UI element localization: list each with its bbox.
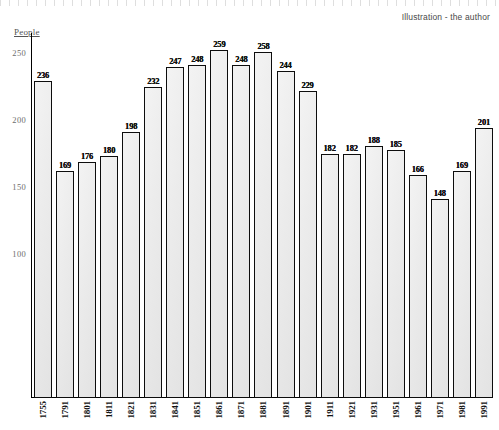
x-axis-year-label: 1951 — [391, 401, 401, 419]
bar-column: 1881931 — [365, 33, 383, 398]
x-axis-year-label: 1971 — [435, 401, 445, 419]
illustration-credit: Illustration - the author — [402, 12, 490, 22]
bar-value-label: 232 — [147, 76, 159, 86]
bar-value-label: 182 — [346, 143, 358, 153]
bar-column: 1761801 — [78, 33, 96, 398]
bar — [210, 50, 228, 398]
bar — [409, 175, 427, 398]
x-axis-year-label: 1821 — [126, 401, 136, 419]
bar-column: 2011991 — [475, 33, 493, 398]
bar-value-label: 248 — [191, 54, 203, 64]
bar — [100, 156, 118, 398]
x-axis-year-label: 1755 — [38, 401, 48, 419]
bar-series: 2361755169179117618011801811198182123218… — [31, 33, 493, 398]
bar-value-label: 176 — [81, 151, 93, 161]
bar — [299, 91, 317, 398]
bar — [365, 146, 383, 398]
x-axis-year-label: 1881 — [258, 401, 268, 419]
bar-column: 2321831 — [144, 33, 162, 398]
x-axis-year-label: 1801 — [82, 401, 92, 419]
bar-column: 1661961 — [409, 33, 427, 398]
bar-value-label: 169 — [59, 160, 71, 170]
scan-artifact-band — [0, 0, 499, 6]
bar-value-label: 247 — [169, 56, 181, 66]
bar-column: 1981821 — [122, 33, 140, 398]
chart-page: Illustration - the author People 2502001… — [0, 0, 499, 430]
bar — [431, 199, 449, 398]
x-axis-year-label: 1931 — [369, 401, 379, 419]
x-axis-year-label: 1861 — [214, 401, 224, 419]
x-axis-year-label: 1981 — [457, 401, 467, 419]
bar — [166, 67, 184, 398]
bar-column: 2481871 — [232, 33, 250, 398]
bar-value-label: 166 — [412, 164, 424, 174]
bar-column: 1821911 — [321, 33, 339, 398]
y-tick-label: 200 — [12, 115, 26, 125]
bar-value-label: 236 — [37, 70, 49, 80]
y-tick-label: 150 — [12, 182, 26, 192]
bar — [232, 65, 250, 398]
bar-column: 2291901 — [299, 33, 317, 398]
bar — [321, 154, 339, 398]
bar-value-label: 148 — [434, 188, 446, 198]
x-axis-year-label: 1961 — [413, 401, 423, 419]
bar — [144, 87, 162, 398]
x-axis-year-label: 1811 — [104, 401, 114, 418]
x-axis-year-label: 1791 — [60, 401, 70, 419]
bar-column: 2361755 — [34, 33, 52, 398]
x-axis-year-label: 1891 — [281, 401, 291, 419]
x-axis-year-label: 1911 — [325, 401, 335, 418]
bar — [188, 65, 206, 398]
bar-column: 1821921 — [343, 33, 361, 398]
bar-column: 1801811 — [100, 33, 118, 398]
x-axis-year-label: 1991 — [479, 401, 489, 419]
bar — [343, 154, 361, 398]
bar-value-label: 201 — [478, 117, 490, 127]
x-axis-year-label: 1871 — [236, 401, 246, 419]
x-axis-year-label: 1901 — [303, 401, 313, 419]
bar — [254, 52, 272, 398]
bar — [56, 171, 74, 398]
bar — [453, 171, 471, 398]
bar — [387, 150, 405, 398]
bar-value-label: 244 — [279, 60, 291, 70]
bar-column: 1691981 — [453, 33, 471, 398]
bar-column: 2581881 — [254, 33, 272, 398]
bar-value-label: 229 — [301, 80, 313, 90]
bar — [122, 132, 140, 398]
x-axis-year-label: 1921 — [347, 401, 357, 419]
bar — [475, 128, 493, 398]
bar-column: 2591861 — [210, 33, 228, 398]
x-axis-year-label: 1851 — [192, 401, 202, 419]
bar-column: 2481851 — [188, 33, 206, 398]
bar-column: 2441891 — [277, 33, 295, 398]
bar-value-label: 169 — [456, 160, 468, 170]
y-tick-label: 100 — [12, 249, 26, 259]
bar-value-label: 248 — [235, 54, 247, 64]
bar-column: 2471841 — [166, 33, 184, 398]
bar — [277, 71, 295, 398]
bar-column: 1691791 — [56, 33, 74, 398]
y-tick-label: 250 — [12, 48, 26, 58]
bar-value-label: 188 — [368, 135, 380, 145]
bar — [78, 162, 96, 398]
bar-column: 1851951 — [387, 33, 405, 398]
bar-value-label: 198 — [125, 121, 137, 131]
bar-value-label: 258 — [257, 41, 269, 51]
bar-value-label: 259 — [213, 39, 225, 49]
plot-area: 250200150100 236175516917911761801180181… — [31, 33, 493, 398]
bar-value-label: 185 — [390, 139, 402, 149]
x-axis-year-label: 1841 — [170, 401, 180, 419]
bar-value-label: 182 — [324, 143, 336, 153]
bar — [34, 81, 52, 398]
bar-value-label: 180 — [103, 145, 115, 155]
x-axis-year-label: 1831 — [148, 401, 158, 419]
bar-column: 1481971 — [431, 33, 449, 398]
